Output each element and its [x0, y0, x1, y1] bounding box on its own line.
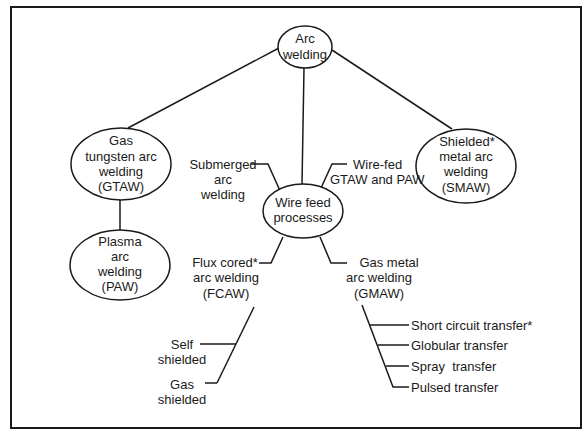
label-line: Gas metal: [359, 255, 418, 270]
node-label: tungsten arc: [85, 149, 157, 164]
node-gtaw: Gas tungsten arc welding (GTAW): [71, 128, 171, 200]
label-line: GTAW and PAW: [330, 172, 425, 187]
label-line: Submerged: [189, 157, 256, 172]
node-label: welding: [97, 264, 142, 279]
node-arc-welding: Arc welding: [278, 26, 332, 68]
label-line: welding: [200, 187, 245, 202]
label-line: arc welding: [346, 270, 412, 285]
node-paw: Plasma arc welding (PAW): [70, 230, 170, 300]
node-label: (SMAW): [442, 180, 491, 195]
node-label: Plasma: [98, 234, 142, 249]
label-line: (GMAW): [354, 286, 404, 301]
node-label: Wire feed: [275, 195, 331, 210]
label-line: Wire-fed: [353, 157, 402, 172]
label-line: shielded: [158, 392, 206, 407]
node-smaw: Shielded* metal arc welding (SMAW): [416, 129, 516, 203]
node-label: Arc: [295, 31, 315, 46]
label-line: Flux cored*: [192, 255, 258, 270]
node-label: Gas: [109, 133, 133, 148]
label-line: Gas: [170, 377, 194, 392]
node-label: Shielded*: [439, 134, 495, 149]
node-label: processes: [273, 210, 333, 225]
label-fcaw: Flux cored* arc welding (FCAW): [192, 255, 259, 301]
label-line: Self: [171, 337, 194, 352]
label-short-circuit-transfer: Short circuit transfer*: [411, 318, 532, 333]
label-line: arc welding: [193, 270, 259, 285]
label-line: arc: [214, 172, 233, 187]
label-line: shielded: [158, 352, 206, 367]
node-label: welding: [443, 164, 488, 179]
arc-welding-process-diagram: Arc welding Gas tungsten arc welding (GT…: [0, 0, 587, 435]
node-label: arc: [111, 249, 130, 264]
node-label: metal arc: [439, 149, 493, 164]
label-globular-transfer: Globular transfer: [411, 338, 508, 353]
label-line: (FCAW): [203, 286, 249, 301]
label-pulsed-transfer: Pulsed transfer: [411, 380, 499, 395]
label-spray-transfer: Spray transfer: [411, 359, 497, 374]
node-wire-feed-processes: Wire feed processes: [263, 184, 343, 238]
node-label: (PAW): [102, 279, 139, 294]
node-label: (GTAW): [98, 179, 144, 194]
node-label: welding: [98, 164, 143, 179]
node-label: welding: [282, 47, 327, 62]
